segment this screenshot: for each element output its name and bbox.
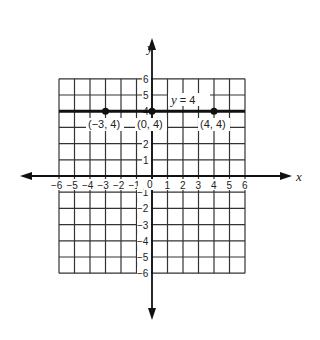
y-tick-label: 6 xyxy=(143,74,149,85)
x-tick-label: −6 xyxy=(51,180,63,191)
point-label-0-4: (0, 4) xyxy=(137,118,163,130)
y-tick-label: −2 xyxy=(137,203,149,214)
x-tick-label: 4 xyxy=(211,180,217,191)
y-axis-down-arrow-icon xyxy=(148,308,156,320)
y-axis-label: y xyxy=(145,40,153,55)
y-tick-label: 5 xyxy=(143,90,149,101)
y-tick-label: 2 xyxy=(143,139,149,150)
point-label-4-4: (4, 4) xyxy=(200,118,226,130)
point-label-neg3-4: (−3, 4) xyxy=(88,118,120,130)
data-point xyxy=(211,108,218,115)
x-axis-label: x xyxy=(295,169,302,184)
y-tick-label: 1 xyxy=(143,155,149,166)
x-tick-label: −2 xyxy=(113,180,125,191)
x-axis-right-arrow-icon xyxy=(280,172,292,180)
x-tick-label: −5 xyxy=(67,180,79,191)
x-tick-label: −3 xyxy=(98,180,110,191)
x-tick-label: 1 xyxy=(165,180,171,191)
equation-label: y = 4 xyxy=(169,92,195,107)
x-tick-label: 6 xyxy=(242,180,248,191)
data-point xyxy=(149,108,156,115)
coordinate-plane: −6−5−4−3−2−1123456123456−1−2−3−4−5−6 xy0… xyxy=(0,0,320,340)
equation-rest: = 4 xyxy=(177,94,196,106)
x-tick-label: −4 xyxy=(82,180,94,191)
x-tick-label: 3 xyxy=(196,180,202,191)
x-tick-label: 2 xyxy=(180,180,186,191)
y-tick-label: −5 xyxy=(137,252,149,263)
x-tick-label: 5 xyxy=(227,180,233,191)
x-axis-left-arrow-icon xyxy=(20,172,32,180)
data-point xyxy=(102,108,109,115)
y-tick-label: −6 xyxy=(137,268,149,279)
origin-label: 0 xyxy=(147,179,153,190)
y-tick-label: −4 xyxy=(137,236,149,247)
y-tick-label: −3 xyxy=(137,220,149,231)
